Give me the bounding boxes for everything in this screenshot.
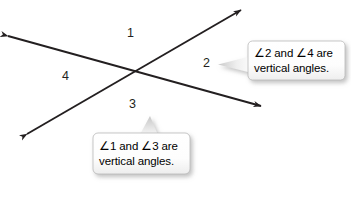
callout-1-3-text: ∠1 and ∠3 are vertical angles.: [99, 139, 189, 169]
callout-1-3: ∠1 and ∠3 are vertical angles.: [0, 0, 351, 198]
callout-1-3-line1: ∠1 and ∠3 are: [99, 139, 189, 154]
callouts-layer: ∠2 and ∠4 are vertical angles.: [0, 0, 351, 198]
callout-1-3-line2: vertical angles.: [99, 154, 189, 169]
vertical-angles-figure: 1 2 3 4: [0, 0, 351, 198]
